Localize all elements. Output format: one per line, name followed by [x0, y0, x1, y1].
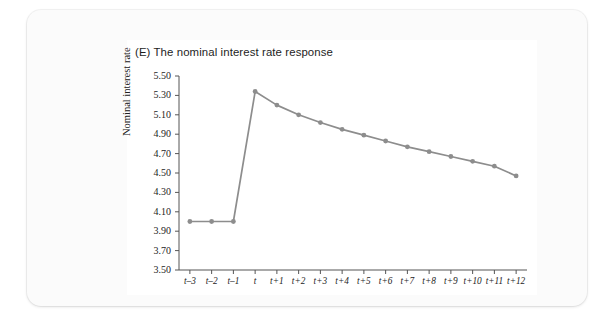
chart-axes	[179, 76, 527, 270]
data-point	[296, 112, 301, 117]
series-line	[190, 92, 516, 222]
figure-card: (E) The nominal interest rate response N…	[27, 10, 587, 306]
data-point	[209, 219, 214, 224]
data-point	[340, 127, 345, 132]
data-point	[492, 164, 497, 169]
data-point	[253, 89, 258, 94]
y-tick-marks	[175, 76, 179, 270]
figure-panel: (E) The nominal interest rate response N…	[127, 40, 537, 295]
data-point	[187, 219, 192, 224]
data-point	[361, 133, 366, 138]
data-point	[274, 103, 279, 108]
x-tick-marks	[190, 270, 516, 274]
line-chart-plot	[127, 40, 537, 295]
screenshot-root: (E) The nominal interest rate response N…	[0, 0, 613, 321]
data-point	[514, 174, 519, 179]
data-point	[318, 120, 323, 125]
data-point	[470, 159, 475, 164]
data-point	[231, 219, 236, 224]
data-point	[427, 149, 432, 154]
data-point	[383, 139, 388, 144]
data-point	[448, 154, 453, 159]
data-point	[405, 144, 410, 149]
